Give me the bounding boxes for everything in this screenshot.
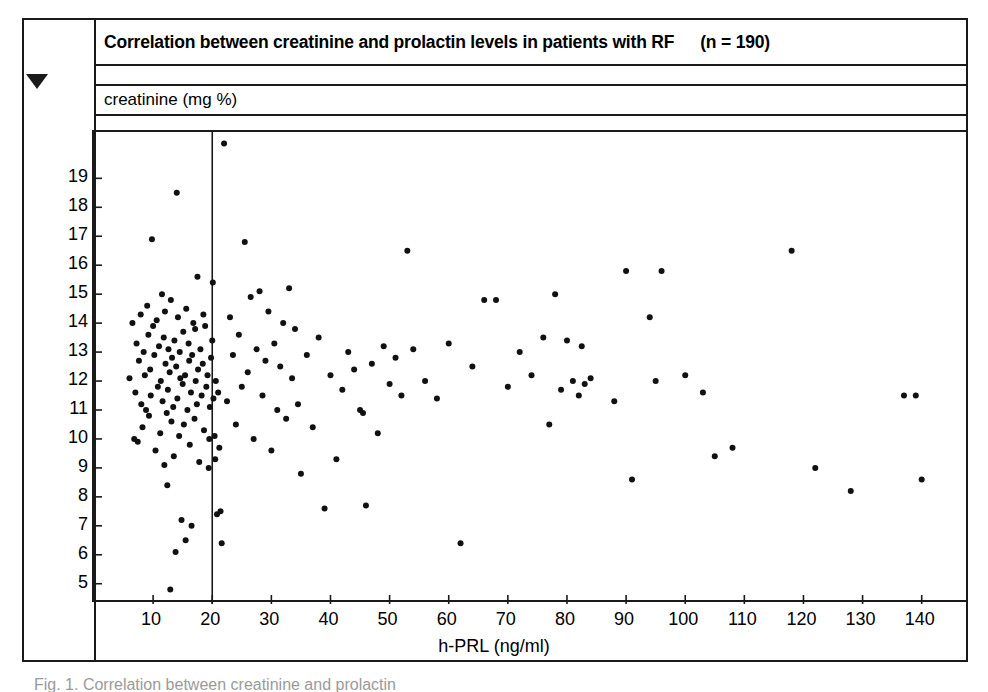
title-band: Correlation between creatinine and prola… xyxy=(94,20,966,66)
y-axis-tick-label: 17 xyxy=(54,225,88,243)
y-axis-tick-label: 11 xyxy=(54,399,88,417)
x-axis-tick-label: 70 xyxy=(496,610,516,628)
page-title: Correlation between creatinine and prola… xyxy=(94,32,674,53)
x-axis-tick-labels: 102030405060708090100110120130140 xyxy=(0,610,988,634)
x-axis-tick-label: 90 xyxy=(614,610,634,628)
x-axis-tick-label: 110 xyxy=(728,610,757,628)
y-axis-tick-label: 6 xyxy=(54,544,88,562)
y-axis-tick-label: 18 xyxy=(54,196,88,214)
y-axis-tick-label: 12 xyxy=(54,370,88,388)
x-axis-tick-label: 30 xyxy=(259,610,279,628)
figure-caption: Fig. 1. Correlation between creatinine a… xyxy=(34,676,396,692)
x-axis-tick-label: 20 xyxy=(200,610,220,628)
x-axis-tick-label: 40 xyxy=(318,610,338,628)
x-axis-tick-label: 80 xyxy=(555,610,575,628)
y-axis-tick-label: 19 xyxy=(54,167,88,185)
plot-area xyxy=(92,130,967,602)
y-axis-caption-band: creatinine (mg %) xyxy=(94,84,966,116)
x-axis-tick-label: 140 xyxy=(905,610,935,628)
y-axis-tick-label: 13 xyxy=(54,341,88,359)
x-axis-tick-label: 60 xyxy=(437,610,457,628)
y-axis-tick-label: 9 xyxy=(54,457,88,475)
x-axis-tick-label: 50 xyxy=(378,610,398,628)
x-axis-tick-label: 130 xyxy=(846,610,876,628)
y-axis-tick-label: 10 xyxy=(54,428,88,446)
y-axis-tick-label: 7 xyxy=(54,515,88,533)
y-axis-label: creatinine (mg %) xyxy=(94,90,237,110)
y-axis-tick-label: 14 xyxy=(54,312,88,330)
y-axis-tick-label: 5 xyxy=(54,573,88,591)
x-axis-tick-label: 100 xyxy=(668,610,698,628)
triangle-down-icon xyxy=(26,74,48,89)
y-axis-tick-label: 15 xyxy=(54,283,88,301)
x-axis-label: h-PRL (ng/ml) xyxy=(0,636,988,657)
scatter-plot-canvas xyxy=(94,132,969,604)
x-axis-tick-label: 120 xyxy=(786,610,816,628)
y-axis-tick-label: 16 xyxy=(54,254,88,272)
sample-size-label: (n = 190) xyxy=(674,32,770,53)
y-axis-tick-label: 8 xyxy=(54,486,88,504)
x-axis-tick-label: 10 xyxy=(141,610,161,628)
y-axis-tick-labels: 5678910111213141516171819 xyxy=(50,0,88,692)
